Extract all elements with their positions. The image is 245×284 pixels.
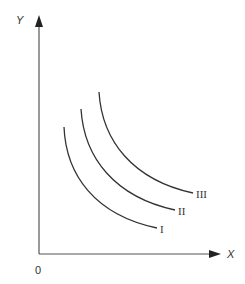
- origin-label: 0: [35, 264, 41, 276]
- y-axis: [35, 15, 43, 254]
- y-axis-arrow-icon: [35, 15, 43, 27]
- x-axis-label: X: [226, 248, 235, 260]
- y-axis-label: Y: [16, 14, 24, 26]
- x-axis-arrow-icon: [209, 250, 221, 258]
- curve-label-i: I: [160, 223, 164, 235]
- indifference-curve-diagram: Y X 0 I II III: [0, 0, 245, 284]
- x-axis: [39, 250, 221, 258]
- indifference-curve-iii: [99, 92, 193, 193]
- curve-label-iii: III: [196, 188, 207, 200]
- curve-label-ii: II: [178, 205, 186, 217]
